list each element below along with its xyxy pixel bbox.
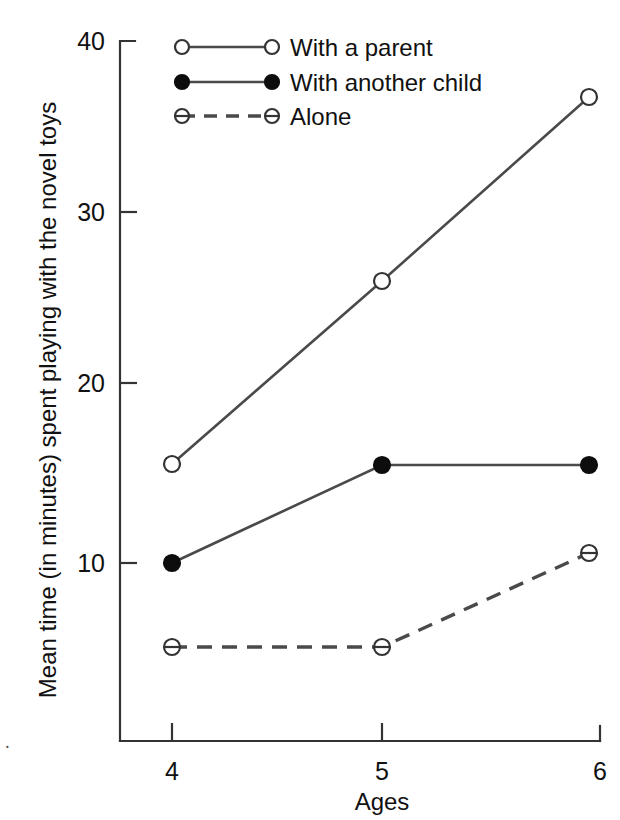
legend-label-alone: Alone [290,103,351,130]
y-axis-tick-labels: 40 30 20 10 [77,27,105,577]
legend-item-with-a-parent: With a parent [175,34,433,61]
data-point-alone-age4 [164,639,180,655]
axis-lines [120,41,600,741]
y-tick-label-20: 20 [77,369,105,397]
y-axis-line [120,41,135,741]
data-point-with-another-child-age5 [374,457,390,473]
series-line-alone [172,553,589,647]
line-chart: 40 30 20 10 4 5 6 Ages Mean time (in min… [0,0,620,820]
legend-label-with-a-parent: With a parent [290,34,433,61]
x-axis-title: Ages [355,788,410,815]
y-tick-label-40: 40 [77,27,105,55]
data-point-with-another-child-age6 [581,457,597,473]
legend-marker-filled-circle-icon [175,75,189,89]
series-alone [164,545,597,655]
y-tick-label-10: 10 [77,549,105,577]
x-tick-label-6: 6 [593,757,607,785]
data-point-with-a-parent-age6 [581,89,597,105]
data-point-with-a-parent-age4 [164,456,180,472]
x-axis-ticks [172,723,382,741]
x-tick-label-5: 5 [375,757,389,785]
legend-label-with-another-child: With another child [290,69,482,96]
y-axis-title: Mean time (in minutes) spent playing wit… [34,102,61,698]
y-axis-ticks [120,212,137,563]
series-line-with-another-child [172,465,589,563]
legend-marker-barred-circle-icon-end [265,109,279,123]
x-tick-label-4: 4 [165,757,179,785]
data-point-with-a-parent-age5 [374,273,390,289]
legend-item-alone: Alone [175,103,351,130]
y-tick-label-30: 30 [77,198,105,226]
chart-container: 40 30 20 10 4 5 6 Ages Mean time (in min… [0,0,620,820]
legend-marker-filled-circle-icon-end [265,75,279,89]
legend-marker-open-circle-icon-end [265,40,279,54]
page-edge-artifact: · [4,734,11,756]
x-axis-tick-labels: 4 5 6 [165,757,607,785]
data-point-with-another-child-age4 [164,555,180,571]
chart-legend: With a parent With another child Alone [175,34,482,130]
legend-marker-open-circle-icon [175,40,189,54]
data-point-alone-age6 [581,545,597,561]
legend-marker-barred-circle-icon [175,109,189,123]
legend-item-with-another-child: With another child [175,69,482,96]
series-with-another-child [164,457,597,571]
data-point-alone-age5 [374,639,390,655]
series-with-a-parent [164,89,597,472]
